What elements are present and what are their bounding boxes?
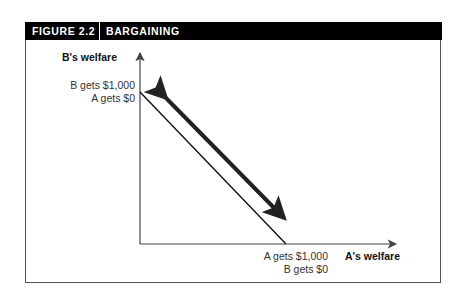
y-intercept-label-line1: B gets $1,000 — [56, 79, 135, 91]
x-intercept-label-line1: A gets $1,000 — [250, 250, 328, 262]
x-intercept-label-line2: B gets $0 — [250, 263, 328, 275]
y-axis-label: B's welfare — [62, 51, 117, 63]
y-intercept-label-line2: A gets $0 — [56, 92, 135, 104]
x-axis-label: A's welfare — [345, 250, 400, 262]
bargaining-frontier-line — [140, 92, 286, 244]
bargaining-range-arrow — [166, 98, 284, 218]
